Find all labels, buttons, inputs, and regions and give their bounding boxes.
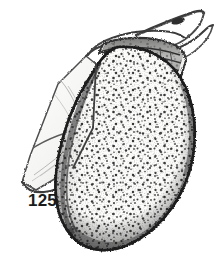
figure-number-label: 125 <box>28 192 57 209</box>
specimen-illustration <box>0 0 220 273</box>
figure-panel: 125 <box>0 0 220 273</box>
